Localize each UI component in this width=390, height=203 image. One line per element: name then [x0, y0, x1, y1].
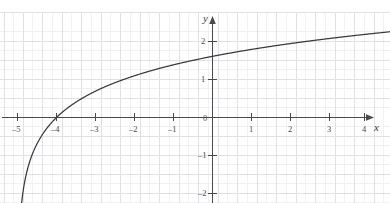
xtick-label: –4 [51, 125, 60, 134]
ytick-label: –2 [198, 189, 207, 198]
y-axis-label: y [203, 13, 208, 24]
xtick-label: 3 [327, 125, 331, 134]
xtick-label: 4 [362, 125, 366, 134]
xtick-label: –5 [12, 125, 21, 134]
plot-background [0, 0, 390, 203]
xtick-label: 2 [288, 125, 292, 134]
xtick-label: 1 [249, 125, 253, 134]
ytick-label: 2 [201, 37, 205, 46]
xtick-label: –1 [168, 125, 177, 134]
xtick-label-origin: 0 [203, 114, 207, 123]
x-axis-label: x [374, 122, 379, 133]
ytick-label: –1 [198, 151, 207, 160]
plot-area [0, 0, 390, 203]
ytick-label: 1 [201, 75, 205, 84]
xtick-label: –2 [129, 125, 138, 134]
xtick-label: –3 [90, 125, 99, 134]
chart-figure: –5 –4 –3 –2 –1 0 1 2 3 4 2 1 –1 –2 y x [0, 0, 390, 203]
